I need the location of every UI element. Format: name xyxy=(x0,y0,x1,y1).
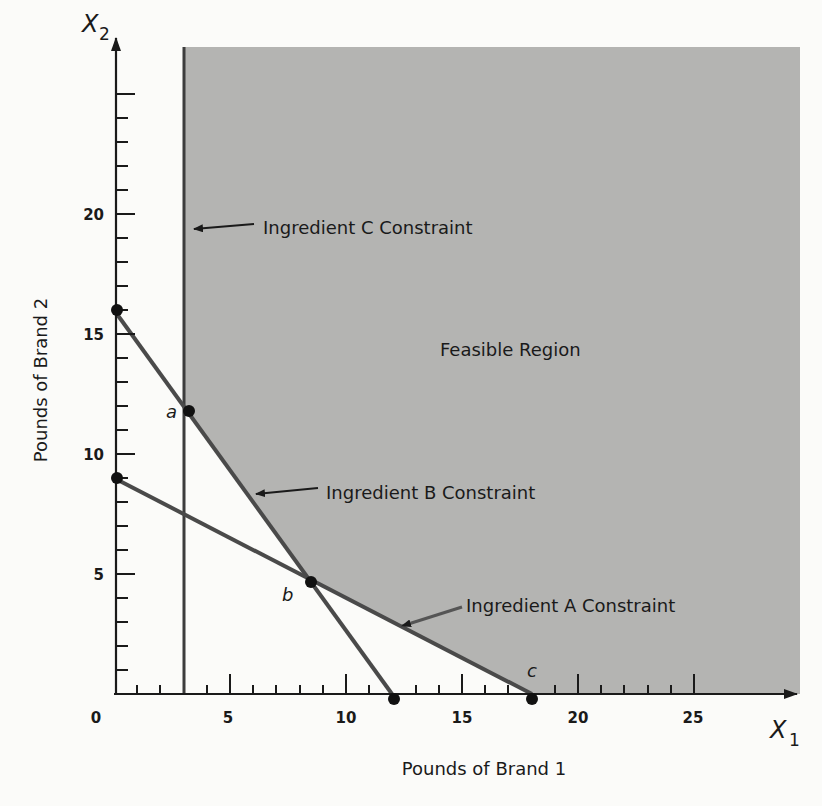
linear-programming-chart: 0 5 10 15 20 25 5 10 15 20 X 2 X 1 Pound… xyxy=(0,0,822,806)
point-c xyxy=(526,693,538,705)
point-a-label: a xyxy=(166,401,177,422)
point-b-label: b xyxy=(282,584,293,605)
x-axis-title: Pounds of Brand 1 xyxy=(402,758,566,779)
point-x12 xyxy=(388,693,400,705)
x-tick-label: 20 xyxy=(568,709,589,727)
point-b xyxy=(305,576,317,588)
y-axis-title: Pounds of Brand 2 xyxy=(30,298,51,462)
x-tick-label: 15 xyxy=(452,709,473,727)
point-y16 xyxy=(111,304,123,316)
ingredient-c-label: Ingredient C Constraint xyxy=(263,217,473,238)
y-tick-label: 20 xyxy=(83,206,104,224)
y-tick-label: 10 xyxy=(83,446,104,464)
y-variable-label: X 2 xyxy=(80,10,110,44)
x-variable-label: X 1 xyxy=(768,716,800,750)
y-axis-ticks xyxy=(116,94,135,670)
ingredient-b-label: Ingredient B Constraint xyxy=(326,482,535,503)
x-tick-label: 0 xyxy=(91,709,101,727)
svg-text:X: X xyxy=(80,10,99,38)
point-a xyxy=(183,405,195,417)
ingredient-a-label: Ingredient A Constraint xyxy=(466,595,675,616)
x-tick-label: 25 xyxy=(683,709,704,727)
svg-text:2: 2 xyxy=(99,24,110,44)
point-c-label: c xyxy=(527,660,537,681)
y-tick-label: 15 xyxy=(83,326,104,344)
y-tick-label: 5 xyxy=(94,566,104,584)
x-tick-label: 10 xyxy=(336,709,357,727)
feasible-region-label: Feasible Region xyxy=(440,339,581,360)
svg-text:X: X xyxy=(768,716,787,744)
svg-text:1: 1 xyxy=(789,730,800,750)
point-y9 xyxy=(111,472,123,484)
x-tick-label: 5 xyxy=(223,709,233,727)
